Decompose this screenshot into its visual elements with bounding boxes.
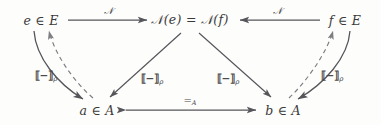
arrow-N-to-b: [199, 33, 271, 97]
arrow-a-to-e-dashed: [49, 31, 93, 98]
arrow-label-e-to-a: ⟦−⟧ρ: [35, 69, 58, 83]
node-f-in-E: f ∈ E: [329, 13, 361, 28]
arrow-e-to-a-curved: [34, 31, 83, 99]
commutative-diagram: e ∈ E 𝒩(e) = 𝒩(f) f ∈ E a ∈ A b ∈ A 𝒩 𝒩 …: [0, 0, 381, 125]
arrow-label-N-to-b: ⟦−⟧ρ: [217, 72, 240, 86]
denote-subscript: ρ: [53, 75, 57, 83]
denote-bracket: ⟦−⟧: [35, 69, 54, 81]
arrow-N-to-a: [110, 33, 181, 97]
node-b-in-A: b ∈ A: [265, 103, 301, 118]
denote-bracket: ⟦−⟧: [321, 69, 340, 81]
denote-subscript: ρ: [159, 78, 163, 86]
node-e-in-E: e ∈ E: [23, 13, 58, 28]
denote-bracket: ⟦−⟧: [217, 72, 236, 84]
arrow-label-e-to-N: 𝒩: [104, 5, 113, 17]
arrow-label-f-to-b: ⟦−⟧ρ: [321, 69, 344, 83]
node-N-e-equals-N-f: 𝒩(e) = 𝒩(f): [151, 12, 228, 28]
equals-subscript: A: [192, 99, 197, 107]
denote-subscript: ρ: [235, 78, 239, 86]
node-a-in-A: a ∈ A: [79, 103, 114, 118]
denote-bracket: ⟦−⟧: [141, 72, 160, 84]
arrow-f-to-b-curved: [298, 31, 350, 99]
arrow-label-N-to-a: ⟦−⟧ρ: [141, 72, 164, 86]
denote-subscript: ρ: [339, 75, 343, 83]
arrow-b-to-f-dashed: [289, 31, 333, 98]
arrow-label-f-to-N: 𝒩: [273, 5, 282, 17]
arrow-label-a-equals-b: =A: [183, 95, 196, 107]
